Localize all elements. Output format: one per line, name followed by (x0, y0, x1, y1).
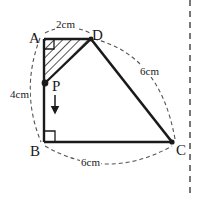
right-angle-mark-B (44, 131, 55, 142)
vertex-label-C: C (176, 143, 186, 158)
measure-label-AB: 4cm (9, 89, 30, 100)
vertex-label-A: A (29, 31, 40, 46)
measure-label-AD: 2cm (55, 19, 76, 30)
measure-arc-BC (45, 146, 172, 164)
point-dot-C (169, 139, 174, 144)
point-label-P: P (52, 79, 60, 94)
point-dot-P (42, 80, 49, 87)
measure-label-DC: 6cm (139, 66, 160, 77)
vertex-label-D: D (92, 28, 103, 43)
vertex-label-B: B (30, 144, 40, 159)
measure-label-BC: 6cm (80, 157, 101, 168)
measure-arc-DC (94, 39, 175, 139)
measure-arc-AB (30, 38, 41, 142)
geometry-figure: A D B C P 2cm 4cm 6cm 6cm (0, 0, 201, 197)
